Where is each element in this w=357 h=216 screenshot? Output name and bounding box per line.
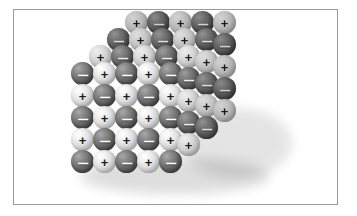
plus-icon: +	[115, 133, 138, 146]
plus-icon: +	[213, 16, 236, 29]
plus-icon: +	[137, 67, 160, 80]
positive-ion: +	[213, 99, 236, 122]
positive-ion: +	[137, 62, 160, 85]
positive-ion: +	[71, 84, 94, 107]
positive-ion: +	[177, 133, 200, 156]
negative-ion: –	[71, 106, 94, 129]
plus-icon: +	[125, 16, 148, 29]
negative-ion: –	[115, 106, 138, 129]
negative-ion: –	[93, 128, 116, 151]
plus-icon: +	[133, 50, 156, 63]
minus-icon: –	[155, 154, 186, 169]
figure-frame: +–+–+–+–+––+–+–+++–+–+––––+–+–++++–+–+––…	[13, 9, 338, 205]
plus-icon: +	[213, 104, 236, 117]
positive-ion: +	[213, 11, 236, 34]
positive-ion: +	[93, 150, 116, 173]
plus-icon: +	[93, 155, 116, 168]
positive-ion: +	[71, 128, 94, 151]
positive-ion: +	[115, 128, 138, 151]
negative-ion: –	[213, 33, 236, 56]
negative-ion: –	[71, 62, 94, 85]
minus-icon: –	[191, 120, 222, 135]
positive-ion: +	[213, 55, 236, 78]
negative-ion: –	[213, 77, 236, 100]
positive-ion: +	[93, 106, 116, 129]
plus-icon: +	[71, 89, 94, 102]
plus-icon: +	[137, 155, 160, 168]
minus-icon: –	[209, 37, 240, 52]
minus-icon: –	[209, 81, 240, 96]
plus-icon: +	[93, 111, 116, 124]
negative-ion: –	[159, 150, 182, 173]
plus-icon: +	[89, 50, 112, 63]
plus-icon: +	[129, 33, 152, 46]
negative-ion: –	[71, 150, 94, 173]
plus-icon: +	[93, 67, 116, 80]
plus-icon: +	[177, 138, 200, 151]
negative-ion: –	[195, 116, 218, 139]
plus-icon: +	[213, 60, 236, 73]
negative-ion: –	[115, 150, 138, 173]
ionic-lattice-diagram: +–+–+–+–+––+–+–+++–+–+––––+–+–++++–+–+––…	[14, 10, 337, 204]
plus-icon: +	[137, 111, 160, 124]
negative-ion: –	[115, 62, 138, 85]
plus-icon: +	[71, 133, 94, 146]
plus-icon: +	[115, 89, 138, 102]
positive-ion: +	[115, 84, 138, 107]
plus-icon: +	[173, 33, 196, 46]
negative-ion: –	[93, 84, 116, 107]
positive-ion: +	[137, 150, 160, 173]
negative-ion: –	[137, 84, 160, 107]
positive-ion: +	[137, 106, 160, 129]
negative-ion: –	[137, 128, 160, 151]
plus-icon: +	[169, 16, 192, 29]
positive-ion: +	[93, 62, 116, 85]
